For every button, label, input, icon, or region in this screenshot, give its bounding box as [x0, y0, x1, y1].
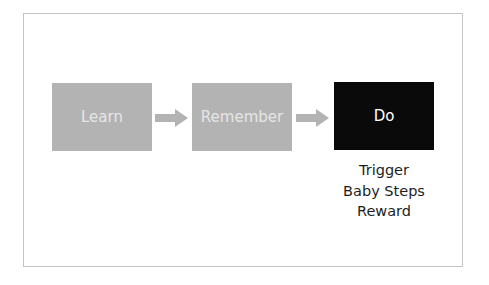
step-remember-label: Remember [201, 108, 283, 126]
step-do: Do [334, 82, 434, 150]
arrow-right-icon [155, 108, 188, 128]
arrow-right-icon [296, 108, 329, 128]
step-learn: Learn [52, 83, 152, 151]
step-learn-label: Learn [81, 108, 123, 126]
detail-trigger: Trigger [334, 160, 434, 181]
do-details: Trigger Baby Steps Reward [334, 160, 434, 222]
step-do-label: Do [374, 107, 395, 125]
detail-baby-steps: Baby Steps [334, 181, 434, 202]
step-remember: Remember [192, 83, 292, 151]
detail-reward: Reward [334, 201, 434, 222]
